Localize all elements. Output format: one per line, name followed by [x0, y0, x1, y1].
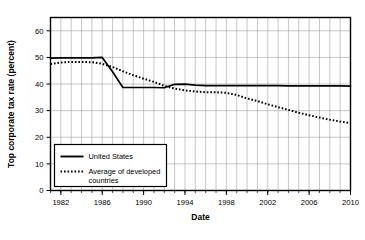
x-axis-tick-label: 1982	[52, 198, 69, 207]
legend-label-united-states: United States	[89, 152, 134, 161]
x-axis-tick-label: 1990	[135, 198, 152, 207]
y-axis-tick-label: 50	[35, 53, 43, 62]
chart-container: 0102030405060198219861990199419982002200…	[0, 0, 365, 240]
x-axis-tick-label: 1986	[94, 198, 111, 207]
x-axis-tick-label: 1998	[218, 198, 235, 207]
legend-label-developed-average-line2: countries	[89, 176, 119, 185]
legend-label-developed-average: Average of developed	[89, 167, 161, 176]
y-axis-tick-label: 10	[35, 160, 43, 169]
x-axis-title: Date	[191, 212, 210, 222]
y-axis-tick-label: 20	[35, 133, 43, 142]
y-axis-tick-label: 0	[39, 186, 43, 195]
x-axis-tick-label: 1994	[177, 198, 194, 207]
y-axis-tick-label: 30	[35, 106, 43, 115]
x-axis-tick-label: 2010	[342, 198, 359, 207]
y-axis-tick-label: 60	[35, 27, 43, 36]
x-axis-tick-label: 2002	[259, 198, 276, 207]
y-axis-title: Top corporate tax rate (percent)	[6, 40, 16, 168]
x-axis-tick-label: 2006	[301, 198, 318, 207]
line-chart: 0102030405060198219861990199419982002200…	[0, 0, 365, 240]
y-axis-tick-label: 40	[35, 80, 43, 89]
